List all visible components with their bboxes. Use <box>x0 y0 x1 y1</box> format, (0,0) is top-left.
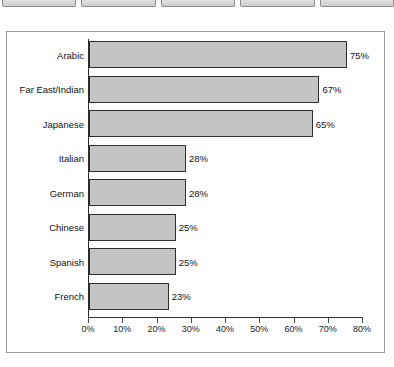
bar-row: Spanish25% <box>7 248 386 275</box>
bar-value-label: 28% <box>189 153 208 164</box>
bar <box>89 179 186 206</box>
category-label: Far East/Indian <box>20 84 84 95</box>
x-axis-tick <box>362 318 363 323</box>
bar-row: Italian28% <box>7 145 386 172</box>
x-axis-tick-label: 60% <box>284 324 302 334</box>
bar-row: German28% <box>7 179 386 206</box>
bar-chart-plot: Arabic75%Far East/Indian67%Japanese65%It… <box>7 32 386 354</box>
x-axis-tick-label: 80% <box>353 324 371 334</box>
bar <box>89 248 176 275</box>
category-label: German <box>50 187 84 198</box>
bar <box>89 283 169 310</box>
category-label: Japanese <box>43 118 84 129</box>
bar-value-label: 25% <box>179 222 198 233</box>
x-axis-tick-label: 30% <box>182 324 200 334</box>
bar-value-label: 23% <box>172 291 191 302</box>
chart-frame: Arabic75%Far East/Indian67%Japanese65%It… <box>6 31 385 353</box>
bar-value-label: 75% <box>350 49 369 60</box>
bar-row: French23% <box>7 283 386 310</box>
category-label: Italian <box>59 153 84 164</box>
bar <box>89 76 319 103</box>
x-axis-tick-label: 20% <box>147 324 165 334</box>
category-label: Spanish <box>50 256 84 267</box>
x-axis-tick <box>157 318 158 323</box>
toolbar-box-4[interactable] <box>240 0 314 7</box>
category-label: Arabic <box>57 49 84 60</box>
ghost-caption <box>0 356 394 366</box>
x-axis-tick <box>122 318 123 323</box>
toolbar-box-2[interactable] <box>81 0 155 7</box>
x-axis-tick-label: 40% <box>216 324 234 334</box>
bar-value-label: 65% <box>316 118 335 129</box>
bar <box>89 145 186 172</box>
x-axis-tick <box>88 318 89 323</box>
x-axis-tick-label: 50% <box>250 324 268 334</box>
toolbar-box-5[interactable] <box>320 0 394 7</box>
x-axis-tick-label: 0% <box>81 324 94 334</box>
bar-value-label: 28% <box>189 187 208 198</box>
bar <box>89 110 313 137</box>
category-label: Chinese <box>49 222 84 233</box>
bar-value-label: 25% <box>179 256 198 267</box>
toolbar-box-3[interactable] <box>161 0 235 7</box>
bar <box>89 214 176 241</box>
x-axis-tick-label: 10% <box>113 324 131 334</box>
x-axis-tick <box>328 318 329 323</box>
x-axis-tick <box>294 318 295 323</box>
bar-row: Japanese65% <box>7 110 386 137</box>
toolbar-box-1[interactable] <box>2 0 76 7</box>
bar-row: Arabic75% <box>7 41 386 68</box>
x-axis-tick <box>259 318 260 323</box>
x-axis-tick-label: 70% <box>319 324 337 334</box>
x-axis-tick <box>191 318 192 323</box>
bar-value-label: 67% <box>322 84 341 95</box>
top-toolbar-strip <box>0 0 394 13</box>
x-axis-tick <box>225 318 226 323</box>
category-label: French <box>54 291 84 302</box>
bar-row: Far East/Indian67% <box>7 76 386 103</box>
bar <box>89 41 347 68</box>
bar-row: Chinese25% <box>7 214 386 241</box>
